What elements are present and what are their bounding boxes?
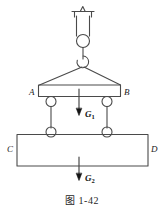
mechanics-diagram-svg — [0, 0, 164, 213]
link-rod-right — [102, 97, 112, 138]
figure-caption: 图 1-42 — [0, 192, 164, 207]
label-block-right-D: D — [151, 145, 158, 154]
force-symbol-G2: G — [85, 173, 92, 183]
force-label-G1: G1 — [85, 110, 95, 119]
force-symbol-G1: G — [85, 109, 92, 119]
force-arrow-G2 — [76, 157, 81, 181]
figure-1-42: A B C D G1 G2 图 1-42 — [0, 0, 164, 213]
force-subscript-G2: 2 — [92, 177, 95, 184]
link-rod-left — [46, 97, 56, 138]
sling-cables — [40, 67, 121, 85]
upper-ring-icon — [77, 35, 90, 48]
force-label-G2: G2 — [85, 174, 95, 183]
label-beam-left-A: A — [29, 88, 35, 97]
force-arrow-G1 — [76, 89, 81, 116]
label-block-left-C: C — [7, 145, 13, 154]
label-beam-right-B: B — [124, 88, 130, 97]
suspension-rod — [77, 16, 90, 36]
block-CD — [17, 135, 148, 167]
ceiling-support-icon — [72, 7, 94, 18]
force-subscript-G1: 1 — [92, 113, 95, 120]
